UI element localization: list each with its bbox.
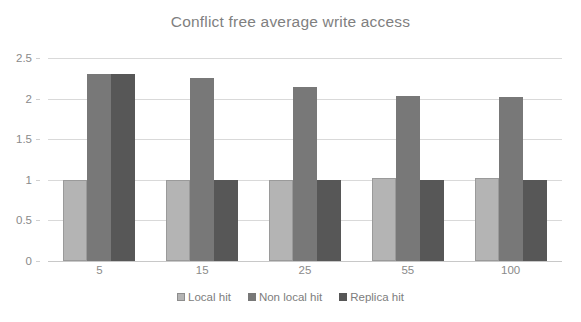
chart-title: Conflict free average write access (0, 13, 581, 31)
bar-replica-hit-100[interactable] (523, 180, 547, 261)
bar-local-hit-55[interactable] (372, 178, 396, 261)
x-tick-label: 5 (96, 264, 102, 276)
x-tick-label: 100 (501, 264, 520, 276)
chart-legend: Local hitNon local hitReplica hit (0, 291, 581, 303)
y-tick-mark (36, 139, 40, 140)
bar-local-hit-5[interactable] (63, 180, 87, 261)
y-tick-label: 0 (26, 255, 32, 267)
bar-non-local-hit-15[interactable] (190, 78, 214, 261)
bar-local-hit-100[interactable] (475, 178, 499, 261)
bar-replica-hit-55[interactable] (420, 180, 444, 261)
bar-local-hit-25[interactable] (269, 180, 293, 261)
chart-container: Conflict free average write access 00.51… (0, 0, 581, 322)
plot-area (48, 58, 562, 261)
bar-replica-hit-25[interactable] (317, 180, 341, 261)
bar-local-hit-15[interactable] (166, 180, 190, 261)
bar-replica-hit-15[interactable] (214, 180, 238, 261)
legend-item-replica-hit[interactable]: Replica hit (339, 291, 404, 303)
legend-swatch-icon (339, 293, 347, 301)
y-tick-mark (36, 180, 40, 181)
legend-item-non-local-hit[interactable]: Non local hit (248, 291, 322, 303)
y-tick-label: 0.5 (16, 214, 32, 226)
x-tick-label: 15 (196, 264, 209, 276)
y-tick-mark (36, 220, 40, 221)
legend-item-local-hit[interactable]: Local hit (177, 291, 231, 303)
x-axis: 5152555100 (48, 264, 562, 284)
bar-group-55 (372, 58, 444, 261)
bar-group-25 (269, 58, 341, 261)
bar-group-100 (475, 58, 547, 261)
bar-group-15 (166, 58, 238, 261)
y-tick-mark (36, 261, 40, 262)
y-axis: 00.511.522.5 (0, 58, 40, 261)
y-tick-label: 1.5 (16, 133, 32, 145)
bar-non-local-hit-5[interactable] (87, 74, 111, 261)
bar-non-local-hit-25[interactable] (293, 87, 317, 261)
x-axis-line (48, 261, 562, 262)
x-tick-label: 25 (299, 264, 312, 276)
y-tick-mark (36, 58, 40, 59)
legend-label: Local hit (188, 291, 231, 303)
y-tick-label: 1 (26, 174, 32, 186)
legend-swatch-icon (177, 293, 185, 301)
legend-label: Replica hit (350, 291, 404, 303)
bar-non-local-hit-55[interactable] (396, 96, 420, 261)
bar-non-local-hit-100[interactable] (499, 97, 523, 261)
y-tick-mark (36, 99, 40, 100)
bar-group-5 (63, 58, 135, 261)
legend-swatch-icon (248, 293, 256, 301)
y-tick-label: 2 (26, 93, 32, 105)
x-tick-label: 55 (401, 264, 414, 276)
legend-label: Non local hit (259, 291, 322, 303)
y-tick-label: 2.5 (16, 52, 32, 64)
bar-replica-hit-5[interactable] (111, 74, 135, 261)
